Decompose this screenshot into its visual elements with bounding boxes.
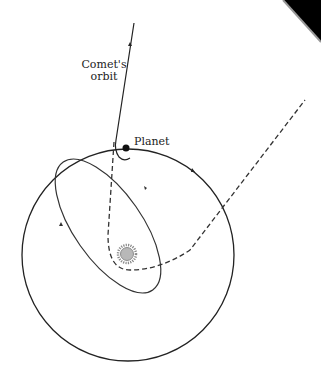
ellipse-arrow-icon (59, 222, 63, 226)
comet-orbit-diagram: Comet's orbit Planet (0, 0, 321, 370)
comet-dashed-path (108, 100, 305, 270)
comet-orbit-label-line2: orbit (91, 70, 118, 83)
comet-incoming-path (115, 23, 134, 160)
planet-label: Planet (134, 135, 170, 148)
sun-icon (118, 245, 136, 263)
ellipse-arrow-icon (144, 186, 147, 190)
orbit-arrow-icon (191, 168, 195, 172)
planet-dot (123, 145, 130, 152)
